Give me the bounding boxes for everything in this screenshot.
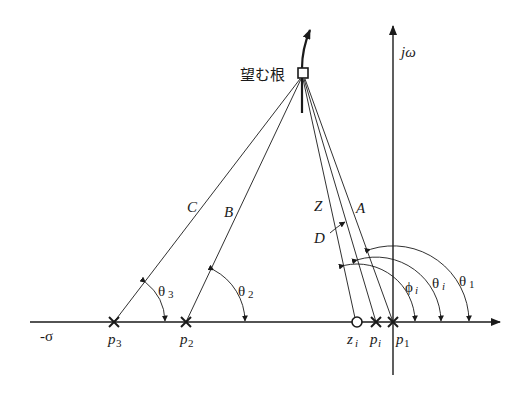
- vector-label-a: A: [355, 200, 366, 216]
- pole-label-pi: p i: [369, 331, 381, 349]
- vector-label-c: C: [187, 199, 198, 215]
- desired-root-label: 望む根: [240, 66, 285, 84]
- root-locus-diagram: 望む根 jω -σ C B Z D A θ 3 θ 2 ϕ i θ i θ 1 …: [0, 0, 521, 395]
- svg-text:1: 1: [404, 337, 410, 349]
- arc-theta1: [370, 246, 469, 321]
- angle-label-theta1: θ 1: [459, 273, 475, 290]
- imag-axis-label: jω: [399, 44, 416, 60]
- svg-text:i: i: [355, 337, 358, 349]
- svg-text:ϕ: ϕ: [405, 279, 413, 295]
- svg-text:i: i: [415, 284, 418, 296]
- angle-label-theta-i: θ i: [432, 275, 445, 292]
- svg-text:3: 3: [116, 337, 122, 349]
- svg-text:θ: θ: [238, 283, 245, 299]
- d-pointer: [330, 222, 345, 233]
- angle-arcs: [146, 246, 469, 321]
- zero-zi-marker: [352, 317, 362, 327]
- svg-text:p: p: [369, 331, 378, 347]
- vector-c: [114, 79, 300, 322]
- pole-label-p2: p 2: [179, 331, 194, 349]
- svg-text:θ: θ: [158, 283, 165, 299]
- real-axis-label: -σ: [40, 328, 53, 344]
- vector-z: [303, 79, 355, 318]
- angle-label-theta3: θ 3: [158, 283, 174, 300]
- angle-label-phi-i: ϕ i: [405, 279, 418, 296]
- svg-text:p: p: [395, 331, 404, 347]
- svg-text:θ: θ: [459, 273, 466, 289]
- svg-text:p: p: [179, 331, 188, 347]
- vectors: [114, 79, 393, 322]
- vector-label-d: D: [313, 230, 325, 246]
- svg-text:θ: θ: [432, 275, 439, 291]
- svg-text:2: 2: [188, 337, 194, 349]
- arc-theta-i: [357, 257, 441, 321]
- zero-label-zi: z i: [346, 331, 358, 349]
- desired-root-marker: [298, 68, 308, 78]
- svg-text:z: z: [346, 331, 353, 347]
- svg-text:p: p: [107, 331, 116, 347]
- angle-label-theta2: θ 2: [238, 283, 254, 300]
- vector-label-z: Z: [314, 198, 323, 214]
- svg-text:2: 2: [248, 288, 254, 300]
- vector-label-b: B: [224, 204, 233, 220]
- pole-label-p3: p 3: [107, 331, 122, 349]
- locus-branch-upper: [302, 30, 310, 68]
- svg-text:3: 3: [168, 288, 174, 300]
- svg-text:i: i: [378, 337, 381, 349]
- svg-text:i: i: [442, 280, 445, 292]
- pole-label-p1: p 1: [395, 331, 410, 349]
- svg-text:1: 1: [469, 278, 475, 290]
